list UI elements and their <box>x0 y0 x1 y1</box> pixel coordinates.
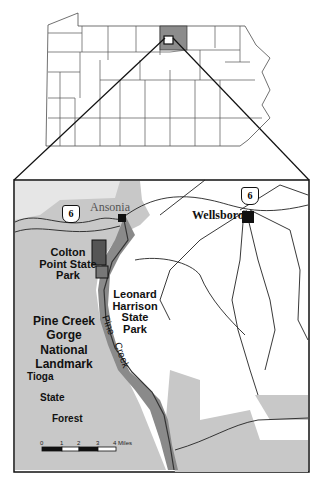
route-6-shield-east: 6 <box>241 187 259 205</box>
scale-tick-3: 3 <box>96 440 99 446</box>
scale-tick-2: 2 <box>77 440 80 446</box>
wellsboro-marker <box>242 211 254 223</box>
map-canvas <box>0 0 323 485</box>
route-6-shield-west: 6 <box>62 205 80 223</box>
scale-tick-0: 0 <box>40 440 43 446</box>
forest-label-state: State <box>40 393 64 404</box>
scale-bar <box>42 447 116 451</box>
wellsboro-label: Wellsboro <box>192 209 244 222</box>
pennsylvania-county-map <box>46 13 270 146</box>
forest-label-tioga: Tioga <box>27 372 53 383</box>
zoom-area-box <box>164 36 173 44</box>
forest-label-forest: Forest <box>52 414 83 425</box>
scale-tick-4: 4 Miles <box>113 440 132 446</box>
ansonia-label: Ansonia <box>90 201 130 214</box>
leonard-harrison-label: Leonard Harrison State Park <box>110 289 160 335</box>
landmark-label: Pine CreekGorge NationalLandmark <box>28 314 100 372</box>
scale-tick-1: 1 <box>60 440 63 446</box>
ansonia-marker <box>118 214 126 222</box>
colton-point-label: Colton Point State Park <box>38 247 98 282</box>
